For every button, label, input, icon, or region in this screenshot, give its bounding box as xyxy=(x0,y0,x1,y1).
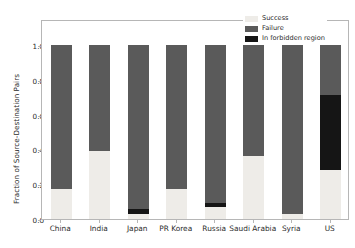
x-tick-label: Saudi Arabia xyxy=(229,224,276,233)
legend-label: In forbidden region xyxy=(262,35,325,42)
bar-chart-figure: Fraction of Source-Destination Pairs 0.0… xyxy=(0,0,355,248)
bar-syria xyxy=(282,45,303,219)
bar-segment-success xyxy=(282,214,303,219)
legend-swatch-icon xyxy=(245,16,258,22)
x-tick-label: PR Korea xyxy=(159,224,192,233)
x-tick-mark xyxy=(60,220,61,223)
legend-swatch-icon xyxy=(245,36,258,42)
bar-segment-success xyxy=(243,156,264,219)
x-tick-label: India xyxy=(90,224,108,233)
x-tick-mark xyxy=(137,220,138,223)
bar-saudi-arabia xyxy=(243,45,264,219)
legend-label: Success xyxy=(262,15,289,22)
legend-label: Failure xyxy=(262,25,284,32)
plot-area xyxy=(41,20,349,220)
bar-segment-failure xyxy=(320,45,341,95)
bar-segment-success xyxy=(128,214,149,219)
bar-segment-success xyxy=(205,207,226,219)
bar-segment-success xyxy=(89,151,110,219)
x-tick-mark xyxy=(253,220,254,223)
x-tick-label: Japan xyxy=(127,224,148,233)
bar-segment-failure xyxy=(205,45,226,203)
bar-india xyxy=(89,45,110,219)
y-tick-mark xyxy=(38,220,41,221)
legend: SuccessFailureIn forbidden region xyxy=(243,13,327,45)
bar-segment-success xyxy=(320,170,341,219)
bar-segment-failure xyxy=(166,45,187,189)
bar-china xyxy=(51,45,72,219)
bar-segment-success xyxy=(51,189,72,219)
bar-segment-in-forbidden-region xyxy=(128,209,149,214)
x-tick-label: Russia xyxy=(202,224,226,233)
bar-russia xyxy=(205,45,226,219)
legend-item[interactable]: In forbidden region xyxy=(245,34,325,44)
bar-segment-failure xyxy=(51,45,72,189)
bar-pr-korea xyxy=(166,45,187,219)
bar-segment-success xyxy=(166,189,187,219)
x-tick-mark xyxy=(99,220,100,223)
x-tick-mark xyxy=(291,220,292,223)
x-tick-label: Syria xyxy=(282,224,301,233)
bar-segment-in-forbidden-region xyxy=(320,95,341,170)
bar-segment-failure xyxy=(243,45,264,156)
bar-segment-failure xyxy=(282,45,303,214)
bar-us xyxy=(320,45,341,219)
bar-segment-failure xyxy=(89,45,110,151)
x-tick-mark xyxy=(330,220,331,223)
bar-japan xyxy=(128,45,149,219)
x-tick-label: US xyxy=(325,224,335,233)
legend-item[interactable]: Success xyxy=(245,14,325,24)
legend-swatch-icon xyxy=(245,26,258,32)
bar-segment-in-forbidden-region xyxy=(205,203,226,206)
legend-item[interactable]: Failure xyxy=(245,24,325,34)
x-tick-mark xyxy=(176,220,177,223)
x-tick-label: China xyxy=(50,224,71,233)
x-tick-mark xyxy=(214,220,215,223)
bar-segment-failure xyxy=(128,45,149,209)
